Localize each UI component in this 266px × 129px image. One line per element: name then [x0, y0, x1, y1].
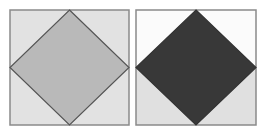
two-diamond-squares-diagram [0, 0, 266, 129]
right-panel [136, 10, 256, 125]
left-panel [10, 10, 129, 125]
figure-canvas [0, 0, 266, 129]
